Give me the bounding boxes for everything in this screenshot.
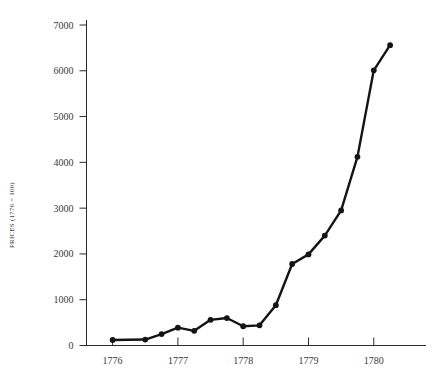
data-series-group <box>110 42 393 343</box>
y-axis-ticks: 01000200030004000500060007000 <box>54 20 87 352</box>
y-axis-title: PRICES (1776 = 100) <box>8 182 16 248</box>
data-point-marker <box>142 337 148 343</box>
y-tick-label: 1000 <box>54 294 74 305</box>
data-point-marker <box>306 251 312 257</box>
y-tick-label: 0 <box>69 340 74 351</box>
data-point-marker <box>224 315 230 321</box>
data-point-marker <box>159 331 165 337</box>
data-point-marker <box>191 328 197 334</box>
line-chart: 01000200030004000500060007000 1776177717… <box>0 0 432 381</box>
y-tick-label: 5000 <box>54 111 74 122</box>
x-tick-label: 1779 <box>298 355 318 366</box>
data-point-marker <box>322 233 328 239</box>
y-tick-label: 6000 <box>54 65 74 76</box>
data-point-marker <box>257 322 263 328</box>
data-point-marker <box>110 337 116 343</box>
y-tick-label: 2000 <box>54 248 74 259</box>
y-tick-label: 7000 <box>54 20 74 31</box>
data-point-marker <box>273 302 279 308</box>
series-line <box>113 45 390 340</box>
chart-container: 01000200030004000500060007000 1776177717… <box>0 0 432 381</box>
data-point-marker <box>240 323 246 329</box>
y-tick-label: 3000 <box>54 203 74 214</box>
data-point-marker <box>208 317 214 323</box>
x-tick-label: 1777 <box>168 355 188 366</box>
data-point-marker <box>355 154 361 160</box>
x-tick-label: 1776 <box>103 355 123 366</box>
data-point-marker <box>371 67 377 73</box>
data-point-marker <box>338 208 344 214</box>
data-point-marker <box>387 42 393 48</box>
x-tick-label: 1778 <box>233 355 253 366</box>
y-tick-label: 4000 <box>54 157 74 168</box>
x-tick-label: 1780 <box>364 355 384 366</box>
data-point-marker <box>175 325 181 331</box>
data-point-marker <box>289 261 295 267</box>
